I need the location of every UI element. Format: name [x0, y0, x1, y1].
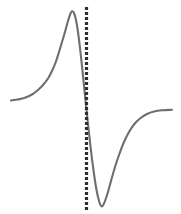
plot-background: [0, 0, 181, 214]
derivative-lineshape-chart: [0, 0, 181, 214]
figure-root: [0, 0, 181, 214]
